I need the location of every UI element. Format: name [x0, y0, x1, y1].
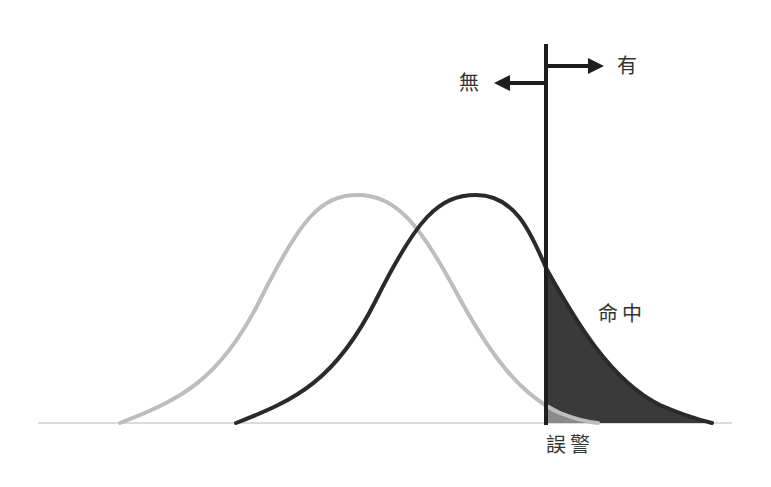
- signal-detection-diagram: [0, 0, 771, 487]
- arrow-right-icon: [548, 58, 604, 74]
- label-hit: 命中: [598, 304, 646, 324]
- label-false-alarm: 誤警: [546, 435, 594, 455]
- label-present: 有: [617, 56, 637, 76]
- hit-area: [546, 268, 712, 423]
- label-absent: 無: [459, 73, 479, 93]
- arrow-left-icon: [494, 75, 544, 91]
